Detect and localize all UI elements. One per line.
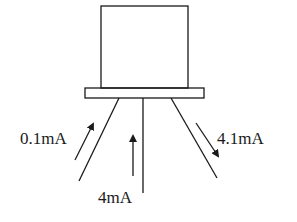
lead-right — [171, 98, 217, 178]
component-body — [101, 6, 188, 88]
transistor-diagram: 0.1mA 4mA 4.1mA — [0, 0, 297, 222]
left-arrow-icon — [75, 124, 93, 160]
leads — [79, 98, 217, 193]
right-arrow-icon — [196, 123, 218, 156]
middle-current-label: 4mA — [98, 188, 133, 207]
current-arrows — [75, 123, 218, 176]
base-plate — [85, 88, 204, 98]
left-current-label: 0.1mA — [20, 129, 67, 148]
right-current-label: 4.1mA — [217, 129, 264, 148]
